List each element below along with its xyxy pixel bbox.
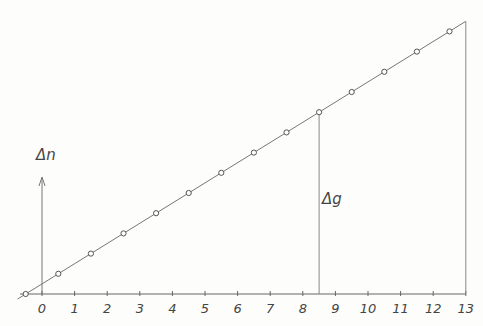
svg-text:3: 3 <box>136 301 144 316</box>
svg-text:2: 2 <box>103 301 111 316</box>
delta-g-label: Δg <box>321 190 342 208</box>
diagram: 012345678910111213 Δn Δg <box>0 0 483 326</box>
svg-text:12: 12 <box>425 301 442 316</box>
y-axis-label: Δn <box>35 146 56 164</box>
svg-text:11: 11 <box>392 301 409 316</box>
svg-text:4: 4 <box>168 301 176 316</box>
svg-text:0: 0 <box>38 301 46 316</box>
svg-text:6: 6 <box>233 301 241 316</box>
svg-text:9: 9 <box>331 301 339 316</box>
regression-line <box>18 21 466 299</box>
svg-text:8: 8 <box>299 301 307 316</box>
x-tick-labels: 012345678910111213 <box>38 301 474 316</box>
svg-text:5: 5 <box>201 301 209 316</box>
svg-text:13: 13 <box>458 301 475 316</box>
svg-text:1: 1 <box>70 301 78 316</box>
svg-text:10: 10 <box>360 301 377 316</box>
x-axis <box>20 177 466 294</box>
svg-text:7: 7 <box>266 301 275 316</box>
